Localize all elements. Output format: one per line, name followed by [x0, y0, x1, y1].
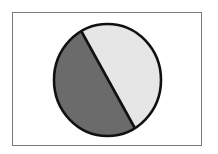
- pie-chart: [0, 0, 218, 154]
